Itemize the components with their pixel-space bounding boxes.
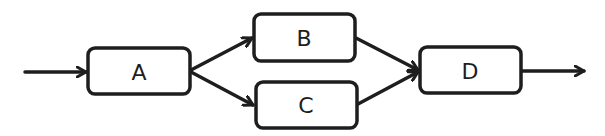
- edge-a-to-c: [191, 72, 253, 105]
- node-b: B: [254, 14, 355, 61]
- edge-b-to-d: [356, 38, 418, 70]
- node-d-label: D: [462, 59, 479, 84]
- node-d: D: [420, 47, 521, 93]
- node-c-label: C: [298, 93, 313, 118]
- edge-a-to-b: [191, 38, 252, 70]
- node-a-label: A: [131, 60, 146, 85]
- node-c: C: [256, 82, 357, 128]
- flow-diagram: A B C D: [0, 0, 605, 136]
- node-a: A: [88, 48, 190, 94]
- node-b-label: B: [296, 26, 311, 51]
- edge-c-to-d: [358, 72, 418, 104]
